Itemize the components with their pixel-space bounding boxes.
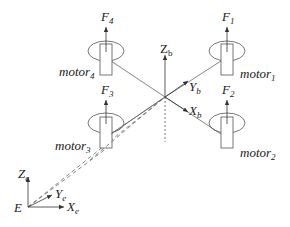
zb-label: Zb [160, 42, 172, 58]
f3-label: F3 [101, 83, 113, 99]
ye-label: Ye [55, 187, 66, 203]
f4-label: F4 [101, 10, 113, 26]
position-vector-dashed [28, 97, 165, 207]
motor2-group [209, 100, 245, 148]
ze-label: Ze [18, 167, 29, 183]
motor3-group [88, 100, 124, 148]
ye-axis [28, 195, 52, 207]
xe-label: Xe [67, 200, 79, 216]
arm-motor4 [111, 61, 165, 97]
motor2-label: motor2 [240, 146, 276, 162]
motor3-label: motor3 [55, 139, 91, 155]
quadrotor-diagram [0, 0, 290, 227]
xb-axis [165, 97, 188, 112]
xb-label: Xb [189, 104, 201, 120]
motor4-label: motor4 [59, 65, 95, 81]
earth-origin-label: E [14, 201, 22, 214]
yb-label: Yb [189, 80, 201, 96]
f1-label: F1 [222, 10, 234, 26]
yb-axis [165, 81, 188, 97]
motor1-label: motor1 [240, 67, 276, 83]
f2-label: F2 [222, 83, 234, 99]
